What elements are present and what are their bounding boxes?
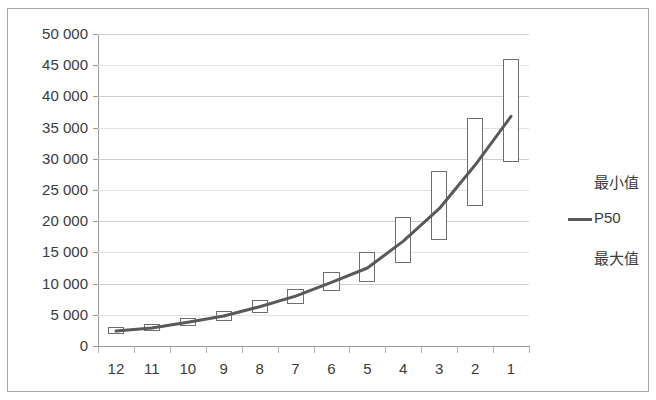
x-axis-tick-label: 8 — [242, 361, 278, 376]
y-axis-tick-mark — [93, 252, 98, 253]
x-axis-tick-mark — [493, 347, 494, 353]
x-axis-tick-label: 10 — [170, 361, 206, 376]
y-axis-tick-label: 0 — [14, 338, 88, 353]
y-axis-tick-mark — [93, 96, 98, 97]
x-axis-tick-label: 4 — [385, 361, 421, 376]
x-axis-tick-mark — [421, 347, 422, 353]
x-axis-tick-label: 2 — [457, 361, 493, 376]
y-axis-tick-label: 30 000 — [14, 151, 88, 166]
x-axis-tick-label: 9 — [206, 361, 242, 376]
y-axis-tick-mark — [93, 284, 98, 285]
median-polyline — [116, 116, 511, 331]
legend-line-swatch-icon — [568, 218, 592, 221]
y-axis-tick-label: 50 000 — [14, 26, 88, 41]
y-axis-label-group: 50 00045 00040 00035 00030 00025 00020 0… — [8, 9, 88, 393]
x-axis-tick-label: 11 — [134, 361, 170, 376]
y-axis-tick-mark — [93, 221, 98, 222]
y-axis-tick-label: 35 000 — [14, 120, 88, 135]
x-axis-tick-mark — [134, 347, 135, 353]
y-axis-tick-mark — [93, 315, 98, 316]
x-axis-tick-label: 3 — [421, 361, 457, 376]
y-axis-tick-mark — [93, 159, 98, 160]
chart-legend: 最小值 P50 最大值 — [568, 167, 648, 281]
x-axis-tick-mark — [314, 347, 315, 353]
y-axis-tick-label: 15 000 — [14, 244, 88, 259]
legend-item-max: 最大值 — [568, 243, 648, 281]
x-axis-tick-mark — [170, 347, 171, 353]
x-axis-tick-mark — [278, 347, 279, 353]
x-axis-tick-label: 7 — [278, 361, 314, 376]
x-axis-tick-label: 12 — [98, 361, 134, 376]
x-axis-tick-label: 1 — [493, 361, 529, 376]
x-axis-tick-label: 6 — [313, 361, 349, 376]
x-axis-tick-mark — [242, 347, 243, 353]
legend-item-min: 最小值 — [568, 167, 648, 205]
y-axis-tick-mark — [93, 128, 98, 129]
x-axis-tick-mark — [206, 347, 207, 353]
median-series-line — [98, 34, 529, 346]
y-axis-tick-label: 45 000 — [14, 57, 88, 72]
y-axis-tick-label: 40 000 — [14, 88, 88, 103]
legend-item-p50: P50 — [568, 205, 648, 243]
x-axis-tick-mark — [349, 347, 350, 353]
legend-label-p50: P50 — [594, 209, 621, 226]
legend-label-min: 最小值 — [594, 171, 639, 192]
x-axis-tick-mark — [98, 347, 99, 353]
y-axis-tick-mark — [93, 65, 98, 66]
x-axis-tick-mark — [385, 347, 386, 353]
y-axis-tick-label: 20 000 — [14, 213, 88, 228]
x-axis-tick-mark — [529, 347, 530, 353]
x-axis-tick-label: 5 — [349, 361, 385, 376]
y-axis-tick-label: 10 000 — [14, 276, 88, 291]
y-axis-tick-label: 5 000 — [14, 307, 88, 322]
y-axis-tick-mark — [93, 190, 98, 191]
chart-frame: 50 00045 00040 00035 00030 00025 00020 0… — [7, 8, 649, 392]
x-axis-tick-mark — [457, 347, 458, 353]
legend-label-max: 最大值 — [594, 247, 639, 268]
y-axis-tick-label: 25 000 — [14, 182, 88, 197]
y-axis-tick-mark — [93, 34, 98, 35]
